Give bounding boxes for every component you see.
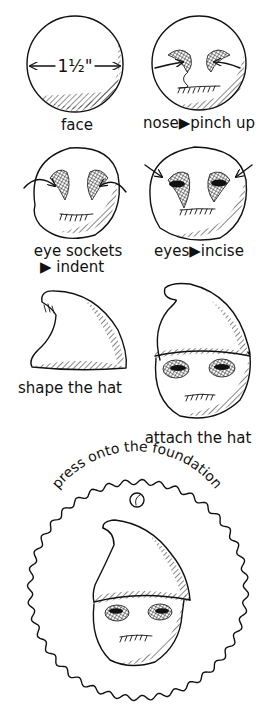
dimension-label: 1½" xyxy=(57,56,92,76)
socket-left xyxy=(168,172,190,208)
step-eye-sockets: eye sockets ▶ indent xyxy=(24,148,126,276)
face-ball xyxy=(34,148,119,239)
indent-arrow-left-icon xyxy=(24,179,55,188)
step-eyes: eyes▶incise xyxy=(145,147,252,260)
mini-hat-shading xyxy=(150,535,190,598)
step-face: 1½" face xyxy=(27,16,123,134)
nose-line xyxy=(180,72,188,88)
nose-dent-right xyxy=(207,50,230,72)
step-label-eyes: eyes▶incise xyxy=(154,242,244,260)
step-nose: nose▶pinch up xyxy=(143,16,255,132)
step-label-face: face xyxy=(61,116,93,134)
mini-hat-outline xyxy=(103,520,190,600)
hanging-hole xyxy=(130,493,144,507)
socket-right xyxy=(208,172,230,202)
incise-arrow-right-icon xyxy=(236,165,252,177)
mouth-line xyxy=(60,214,93,215)
mouth-line xyxy=(180,209,215,210)
mouth-line xyxy=(178,86,220,88)
face-ball xyxy=(150,147,247,240)
mouth-line xyxy=(185,394,215,396)
hat-brim-shading xyxy=(36,361,122,370)
step-label-shape-hat: shape the hat xyxy=(18,379,122,397)
hat-shading xyxy=(85,300,124,366)
foundation-scalloped-edge xyxy=(27,479,248,700)
pinch-arrow-right-icon xyxy=(214,62,240,68)
incise-arrow-left-icon xyxy=(145,165,162,177)
socket-right xyxy=(87,170,108,200)
step-foundation: press onto the foundation xyxy=(27,438,248,700)
mini-hat-front xyxy=(93,528,114,602)
mini-eye-right xyxy=(155,608,169,614)
eye-right xyxy=(214,364,230,370)
eye-right xyxy=(211,180,227,187)
pinch-arrow-left-icon xyxy=(155,62,183,68)
step-attach-hat: attach the hat xyxy=(145,284,252,448)
hole-inner-curve xyxy=(136,495,141,505)
step-label-eye-sockets-line2: ▶ indent xyxy=(40,258,104,276)
instruction-diagram: 1½" face nose▶pinch up eye sockets ▶ ind… xyxy=(0,0,275,708)
mini-brim-shading xyxy=(95,591,190,604)
nose-dent-left xyxy=(168,50,191,72)
indent-arrow-right-icon xyxy=(100,182,126,192)
step-label-nose: nose▶pinch up xyxy=(143,114,255,132)
mini-eye-left xyxy=(109,608,123,614)
brim-shading xyxy=(155,348,250,358)
hat-tip-hatch xyxy=(44,304,54,313)
eye-left xyxy=(169,181,185,188)
eye-left xyxy=(170,365,186,371)
step-shape-hat: shape the hat xyxy=(18,291,126,397)
